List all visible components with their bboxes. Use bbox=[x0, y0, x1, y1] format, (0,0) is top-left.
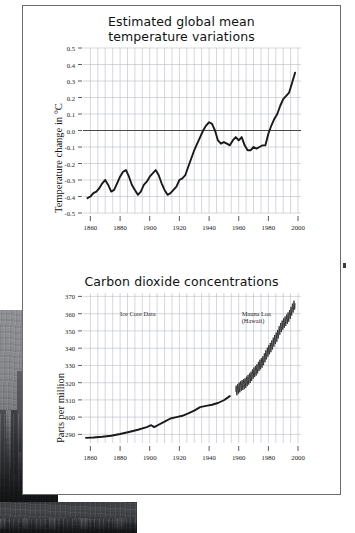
figure-temperature-plot: Temperature change in °C 0.50.40.30.20.1… bbox=[23, 44, 340, 259]
ytick-label: -0.4 bbox=[23, 193, 75, 200]
xtick-label: 1940 bbox=[202, 224, 216, 231]
plot-annotation: Mauna Loa (Hawaii) bbox=[242, 310, 271, 325]
ytick-label: 320 bbox=[23, 379, 75, 386]
ytick-label: -0.5 bbox=[23, 210, 75, 217]
xtick-label: 1920 bbox=[173, 454, 187, 461]
figure-co2: Carbon dioxide concentrations Parts per … bbox=[23, 274, 340, 494]
ytick-label: 0.1 bbox=[23, 111, 75, 118]
ytick-label: 0.0 bbox=[23, 127, 75, 134]
ytick-label: -0.3 bbox=[23, 177, 75, 184]
ytick-label: -0.1 bbox=[23, 144, 75, 151]
ytick-label: 300 bbox=[23, 414, 75, 421]
figure-temperature-title-line1: Estimated global mean bbox=[23, 14, 340, 29]
photo-skyline-shadow bbox=[0, 519, 137, 533]
city-skyline-photo-lower bbox=[0, 502, 137, 533]
ytick-label: 340 bbox=[23, 345, 75, 352]
chart-panel: Estimated global mean temperature variat… bbox=[22, 5, 341, 495]
figure-co2-plot: Parts per million 3703603503403303203103… bbox=[23, 289, 340, 479]
ytick-label: 0.2 bbox=[23, 94, 75, 101]
xtick-label: 1980 bbox=[262, 454, 276, 461]
figure-temperature-title-line2: temperature variations bbox=[23, 29, 340, 44]
ytick-label: 310 bbox=[23, 396, 75, 403]
figure-co2-title: Carbon dioxide concentrations bbox=[23, 274, 340, 289]
xtick-label: 1980 bbox=[262, 224, 276, 231]
ytick-label: 290 bbox=[23, 431, 75, 438]
slide-root: Estimated global mean temperature variat… bbox=[0, 0, 355, 533]
ytick-label: 0.5 bbox=[23, 45, 75, 52]
xtick-label: 1940 bbox=[202, 454, 216, 461]
ytick-label: 330 bbox=[23, 362, 75, 369]
ytick-label: 360 bbox=[23, 310, 75, 317]
xtick-label: 1860 bbox=[84, 224, 98, 231]
xtick-label: 2000 bbox=[291, 224, 305, 231]
ytick-label: 370 bbox=[23, 293, 75, 300]
xtick-label: 1880 bbox=[113, 224, 127, 231]
xtick-label: 1960 bbox=[232, 454, 246, 461]
xtick-label: 1960 bbox=[232, 224, 246, 231]
xtick-label: 2000 bbox=[291, 454, 305, 461]
xtick-label: 1920 bbox=[173, 224, 187, 231]
xtick-label: 1900 bbox=[143, 454, 157, 461]
ytick-label: 350 bbox=[23, 327, 75, 334]
xtick-label: 1900 bbox=[143, 224, 157, 231]
figure-temperature: Estimated global mean temperature variat… bbox=[23, 14, 340, 264]
xtick-label: 1880 bbox=[113, 454, 127, 461]
xtick-label: 1860 bbox=[84, 454, 98, 461]
stray-mark bbox=[343, 263, 346, 268]
plot-annotation: Ice Core Data bbox=[120, 310, 155, 318]
ytick-label: 0.4 bbox=[23, 61, 75, 68]
ytick-label: 0.3 bbox=[23, 78, 75, 85]
ytick-label: -0.2 bbox=[23, 160, 75, 167]
